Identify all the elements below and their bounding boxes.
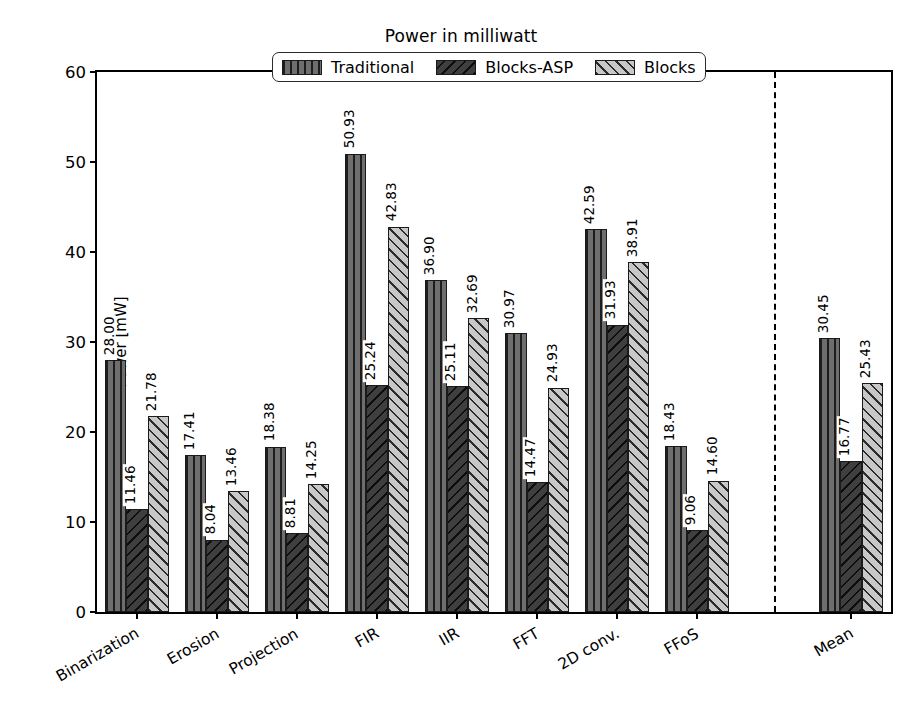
bar-blocks-asp-binarization: 11.46 <box>126 509 147 612</box>
bar-value-label: 18.43 <box>662 401 676 443</box>
bar-value-label: 30.45 <box>815 293 829 335</box>
bar-blocks-fir: 42.83 <box>388 227 409 612</box>
legend-swatch <box>436 60 476 75</box>
bar-value-label: 24.93 <box>544 343 558 385</box>
legend-swatch <box>595 60 635 75</box>
bar-value-label: 28.00 <box>102 315 116 357</box>
bar-value-label: 11.46 <box>123 464 137 506</box>
bar-value-label: 32.69 <box>464 273 478 315</box>
x-axis-tick-label: Projection <box>226 624 301 678</box>
y-axis-tick-mark <box>90 251 97 253</box>
legend-swatch <box>282 60 322 75</box>
bar-value-label: 16.77 <box>837 416 851 458</box>
bar-value-label: 8.04 <box>203 504 217 537</box>
legend-item-blocks-asp: Blocks-ASP <box>436 58 573 77</box>
bar-value-label: 13.46 <box>224 446 238 488</box>
bar-blocks-asp-mean: 16.77 <box>840 461 861 612</box>
x-axis-tick-mark <box>456 612 458 619</box>
bar-value-label: 50.93 <box>342 109 356 151</box>
x-axis-tick-mark <box>216 612 218 619</box>
x-axis-tick-label: FFoS <box>661 624 702 658</box>
legend-label: Blocks <box>644 58 696 77</box>
mean-separator-line <box>774 72 776 612</box>
plot-area: 010203040506028.0011.4621.78Binarization… <box>97 72 891 612</box>
bar-blocks-binarization: 21.78 <box>148 416 169 612</box>
bar-blocks-asp-2d-conv-: 31.93 <box>607 325 628 612</box>
x-axis-tick-label: Binarization <box>53 624 142 686</box>
bar-value-label: 25.11 <box>443 341 457 383</box>
bar-value-label: 14.60 <box>704 436 718 478</box>
legend: TraditionalBlocks-ASPBlocks <box>272 52 706 82</box>
bar-blocks-mean: 25.43 <box>862 383 883 612</box>
bar-value-label: 30.97 <box>502 289 516 331</box>
bar-blocks-asp-iir: 25.11 <box>447 386 468 612</box>
y-axis-tick-mark <box>90 71 97 73</box>
bar-value-label: 14.47 <box>523 437 537 479</box>
y-axis-tick-mark <box>90 521 97 523</box>
x-axis-tick-mark <box>376 612 378 619</box>
bar-blocks-erosion: 13.46 <box>228 491 249 612</box>
bar-value-label: 42.83 <box>384 182 398 224</box>
bar-value-label: 25.24 <box>363 340 377 382</box>
x-axis-tick-label: Erosion <box>164 624 222 668</box>
figure: Power in milliwatt Power [mW] 0102030405… <box>0 0 922 709</box>
legend-item-blocks: Blocks <box>595 58 696 77</box>
x-axis-tick-label: FFT <box>510 624 542 653</box>
x-axis-tick-label: IIR <box>436 624 462 650</box>
bar-traditional-ffos: 18.43 <box>665 446 686 612</box>
bar-blocks-fft: 24.93 <box>548 388 569 612</box>
x-axis-tick-mark <box>136 612 138 619</box>
bar-blocks-asp-ffos: 9.06 <box>687 530 708 612</box>
bar-value-label: 42.59 <box>582 184 596 226</box>
bar-blocks-ffos: 14.60 <box>708 481 729 612</box>
x-axis-tick-label: Mean <box>811 624 857 661</box>
y-axis-tick-mark <box>90 611 97 613</box>
bar-value-label: 25.43 <box>858 338 872 380</box>
x-axis-tick-mark <box>696 612 698 619</box>
bar-blocks-2d-conv-: 38.91 <box>628 262 649 612</box>
bar-blocks-asp-fir: 25.24 <box>366 385 387 612</box>
bar-blocks-projection: 14.25 <box>308 484 329 612</box>
bar-value-label: 36.90 <box>422 235 436 277</box>
bar-value-label: 14.25 <box>304 439 318 481</box>
bar-blocks-asp-erosion: 8.04 <box>206 540 227 612</box>
y-axis-tick-mark <box>90 161 97 163</box>
x-axis-tick-mark <box>296 612 298 619</box>
x-axis-tick-mark <box>536 612 538 619</box>
bar-value-label: 31.93 <box>603 280 617 322</box>
y-axis-tick-mark <box>90 341 97 343</box>
bar-value-label: 21.78 <box>144 371 158 413</box>
bar-traditional-iir: 36.90 <box>425 280 446 612</box>
bar-value-label: 8.81 <box>283 497 297 530</box>
legend-item-traditional: Traditional <box>282 58 414 77</box>
bar-traditional-fir: 50.93 <box>345 154 366 612</box>
x-axis-tick-label: 2D conv. <box>555 624 622 673</box>
x-axis-tick-mark <box>850 612 852 619</box>
bar-traditional-mean: 30.45 <box>819 338 840 612</box>
bar-blocks-asp-projection: 8.81 <box>286 533 307 612</box>
x-axis-tick-mark <box>616 612 618 619</box>
chart-title: Power in milliwatt <box>0 26 922 46</box>
bar-value-label: 9.06 <box>683 494 697 527</box>
legend-label: Blocks-ASP <box>485 58 573 77</box>
bar-value-label: 38.91 <box>624 217 638 259</box>
bar-blocks-asp-fft: 14.47 <box>527 482 548 612</box>
y-axis-tick-mark <box>90 431 97 433</box>
x-axis-tick-label: FIR <box>352 624 382 652</box>
legend-label: Traditional <box>331 58 414 77</box>
bar-value-label: 17.41 <box>182 411 196 453</box>
bar-blocks-iir: 32.69 <box>468 318 489 612</box>
bar-value-label: 18.38 <box>262 402 276 444</box>
plot-axes: Power [mW] 010203040506028.0011.4621.78B… <box>95 70 893 614</box>
